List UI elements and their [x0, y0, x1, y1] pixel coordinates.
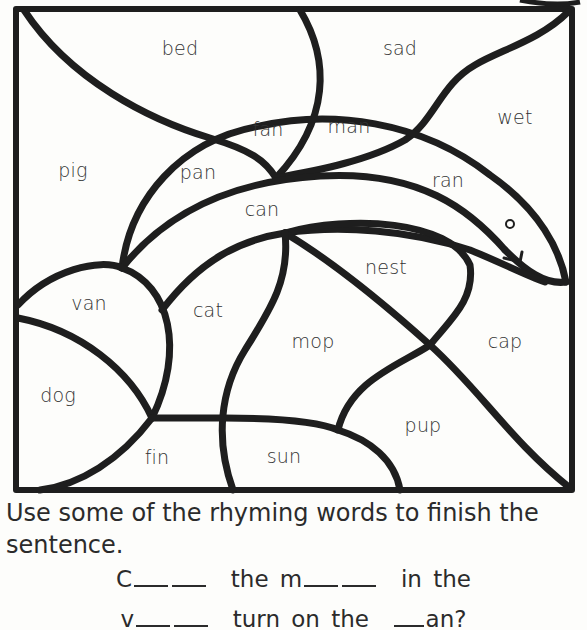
- instructions: Use some of the rhyming words to finish …: [6, 497, 566, 561]
- answer-blank[interactable]: [174, 607, 208, 627]
- word-man: man: [328, 115, 371, 137]
- sentence-word: C: [116, 566, 132, 592]
- sentence-word: an?: [426, 606, 467, 630]
- word-cat: cat: [193, 299, 223, 321]
- sentence-word: turn on the: [233, 606, 369, 630]
- word-sun: sun: [267, 445, 302, 467]
- answer-blank[interactable]: [342, 567, 376, 587]
- word-pup: pup: [405, 414, 442, 436]
- sentence-line-2: v turn on the an?: [0, 606, 587, 630]
- word-can: can: [245, 198, 280, 220]
- word-nest: nest: [365, 256, 407, 278]
- answer-blank[interactable]: [136, 607, 170, 627]
- sentence-word: in the: [401, 566, 471, 592]
- word-van: van: [71, 292, 107, 314]
- sentence-word: the m: [231, 566, 302, 592]
- sentence-word: v: [120, 606, 134, 630]
- word-pig: pig: [58, 159, 87, 181]
- answer-blank[interactable]: [304, 567, 338, 587]
- word-bed: bed: [162, 37, 198, 59]
- word-mop: mop: [292, 330, 335, 352]
- sentence-line-1: C the m in the: [0, 566, 587, 592]
- word-fin: fin: [145, 446, 170, 468]
- answer-blank[interactable]: [172, 567, 206, 587]
- answer-blank[interactable]: [134, 567, 168, 587]
- puzzle-outline: [0, 0, 587, 500]
- answer-blank[interactable]: [394, 607, 424, 627]
- rhyming-puzzle: bed sad wet fan man pig pan ran can nest…: [0, 0, 587, 500]
- word-ran: ran: [432, 169, 464, 191]
- word-pan: pan: [180, 161, 216, 183]
- word-fan: fan: [253, 118, 284, 140]
- word-sad: sad: [383, 37, 417, 59]
- word-dog: dog: [40, 384, 76, 406]
- word-cap: cap: [488, 330, 523, 352]
- word-wet: wet: [497, 106, 532, 128]
